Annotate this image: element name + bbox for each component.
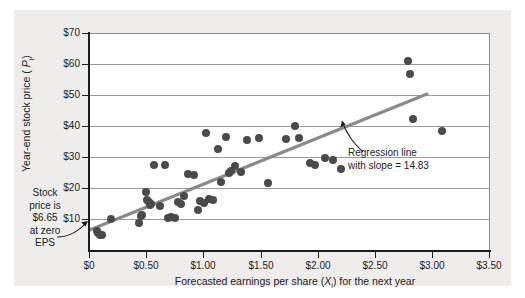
scatter-point xyxy=(237,168,245,176)
scatter-point xyxy=(98,231,106,239)
scatter-point xyxy=(243,136,251,144)
scatter-point xyxy=(291,122,299,130)
gridline-60 xyxy=(89,64,490,65)
x-axis-tick-300 xyxy=(432,251,433,258)
scatter-point xyxy=(282,135,290,143)
regression-annotation-line1: Regression line xyxy=(348,146,429,159)
y-axis-title-pre: Year-end stock price ( xyxy=(20,67,32,172)
x-axis-tick-250 xyxy=(375,251,376,258)
scatter-point xyxy=(329,156,337,164)
scatter-point xyxy=(404,57,412,65)
scatter-point xyxy=(337,165,345,173)
gridline-50 xyxy=(89,95,490,96)
x-tick-label-200: $2.00 xyxy=(294,261,342,271)
intercept-annotation-line1: Stock xyxy=(14,187,76,200)
x-tick-label-050: $0.50 xyxy=(122,261,170,271)
x-tick-label-150: $1.50 xyxy=(237,261,285,271)
x-axis-tick-050 xyxy=(146,251,147,258)
scatter-point xyxy=(311,161,319,169)
scatter-point xyxy=(135,219,143,227)
scatter-point xyxy=(190,171,198,179)
chart-figure: $70 $60 $50 $40 $30 $20 $10 $0 $0 xyxy=(0,0,525,298)
scatter-point xyxy=(214,145,222,153)
scatter-point xyxy=(156,202,164,210)
scatter-point xyxy=(222,133,230,141)
gridline-70 xyxy=(89,33,490,34)
x-tick-label-250: $2.50 xyxy=(351,261,399,271)
y-axis-line xyxy=(88,32,90,252)
x-axis-tick-350 xyxy=(489,251,490,258)
intercept-annotation-line3: $6.65 xyxy=(14,212,76,225)
x-axis-tick-150 xyxy=(261,251,262,258)
scatter-point xyxy=(295,134,303,142)
intercept-annotation: Stock price is $6.65 at zero EPS xyxy=(14,187,76,250)
regression-annotation-line2: with slope = 14.83 xyxy=(348,159,429,172)
y-axis-title-variable: P xyxy=(20,60,32,67)
scatter-point xyxy=(264,179,272,187)
plot-right-border xyxy=(489,33,490,251)
scatter-point xyxy=(171,214,179,222)
scatter-point xyxy=(255,134,263,142)
y-axis-title-post: ) xyxy=(20,55,32,59)
y-tick-label-40: $40 xyxy=(32,121,80,131)
x-axis-line xyxy=(88,250,491,252)
x-axis-tick-200 xyxy=(318,251,319,258)
gridline-40 xyxy=(89,126,490,127)
scatter-point xyxy=(209,196,217,204)
scatter-point xyxy=(142,188,150,196)
intercept-annotation-line4: at zero xyxy=(14,225,76,238)
gridline-10 xyxy=(89,219,490,220)
regression-annotation: Regression line with slope = 14.83 xyxy=(348,146,429,172)
y-tick-label-30: $30 xyxy=(32,152,80,162)
x-axis-title-post: ) for the next year xyxy=(333,275,415,287)
plot-area xyxy=(89,33,490,251)
y-axis-title-subscript: i xyxy=(27,59,36,61)
y-axis-title: Year-end stock price ( Pi) xyxy=(20,39,35,189)
scatter-point xyxy=(217,178,225,186)
scatter-point xyxy=(438,127,446,135)
scatter-point xyxy=(177,200,185,208)
scatter-point xyxy=(409,115,417,123)
scatter-point xyxy=(107,215,115,223)
intercept-annotation-line2: price is xyxy=(14,200,76,213)
x-tick-label-0: $0 xyxy=(65,261,113,271)
scatter-point xyxy=(202,129,210,137)
scatter-point xyxy=(150,161,158,169)
y-tick-label-60: $60 xyxy=(32,59,80,69)
scatter-point xyxy=(138,211,146,219)
scatter-point xyxy=(321,154,329,162)
scatter-point xyxy=(161,161,169,169)
x-tick-label-350: $3.50 xyxy=(465,261,513,271)
intercept-annotation-line5: EPS xyxy=(14,237,76,250)
x-tick-label-100: $1.00 xyxy=(179,261,227,271)
x-axis-tick-100 xyxy=(203,251,204,258)
scatter-point xyxy=(194,206,202,214)
scatter-point xyxy=(406,70,414,78)
gridline-30 xyxy=(89,157,490,158)
x-axis-tick-0 xyxy=(89,251,90,258)
x-axis-title-pre: Forecasted earnings per share ( xyxy=(175,275,324,287)
x-axis-title: Forecasted earnings per share (Xi) for t… xyxy=(150,275,440,290)
scatter-point xyxy=(147,200,155,208)
x-tick-label-300: $3.00 xyxy=(408,261,456,271)
y-tick-label-50: $50 xyxy=(32,90,80,100)
y-tick-label-70: $70 xyxy=(32,28,80,38)
scatter-point xyxy=(180,192,188,200)
